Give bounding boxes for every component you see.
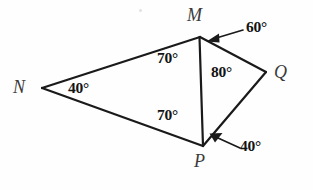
arrowhead-60-icon <box>207 34 220 43</box>
geometry-diagram: N M P Q 40° 70° 70° 60° 80° 40° <box>0 0 313 190</box>
segment-MP <box>200 37 204 146</box>
leader-line-40-degrees <box>210 133 241 148</box>
scan-speck <box>139 9 142 12</box>
angle-label-NPM: 70° <box>157 107 178 123</box>
angle-label-MQP: 80° <box>211 64 232 80</box>
leader-line-60-degrees <box>207 30 244 43</box>
segment-MQ <box>200 37 266 72</box>
triangle-MQP <box>200 37 266 146</box>
angle-label-QPM: 40° <box>240 138 261 154</box>
segment-NP <box>42 88 203 146</box>
angle-label-QMP: 60° <box>246 19 267 35</box>
leader-stroke-40 <box>218 138 240 148</box>
vertex-label-N: N <box>13 78 25 96</box>
angle-label-N: 40° <box>68 80 89 96</box>
vertex-label-P: P <box>194 152 205 170</box>
angle-label-NMP: 70° <box>157 50 178 66</box>
vertex-label-M: M <box>187 6 202 24</box>
triangle-MNP <box>42 37 203 146</box>
vertex-label-Q: Q <box>274 63 287 81</box>
